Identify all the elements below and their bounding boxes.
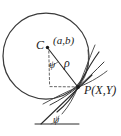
circle-of-curvature (3, 13, 89, 99)
label-psi-at-center: ψ (49, 60, 55, 70)
diagram-canvas (0, 0, 121, 136)
label-center-coordinates: (a,b) (53, 35, 74, 46)
label-center-point: C (36, 39, 44, 51)
osculating-circle-diagram: C (a,b) ρ ψ P(X,Y) ψ (0, 0, 121, 136)
center-point-dot (46, 46, 49, 49)
label-point-on-curve: P(X,Y) (84, 84, 116, 96)
label-psi-at-tangent: ψ (53, 115, 59, 125)
curve-point-dot (76, 85, 80, 89)
label-radius-rho: ρ (64, 57, 70, 69)
